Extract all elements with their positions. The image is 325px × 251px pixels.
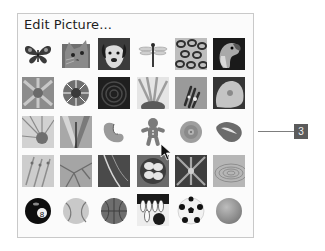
cat-icon bbox=[60, 38, 92, 70]
ripples-icon bbox=[213, 155, 245, 187]
picture-sunflower[interactable] bbox=[137, 77, 169, 109]
flower-petals-icon bbox=[22, 77, 54, 109]
picture-leaf-veins[interactable] bbox=[60, 155, 92, 187]
leaf-veins-icon bbox=[60, 155, 92, 187]
dark-swirl-icon bbox=[98, 77, 130, 109]
butterfly-icon bbox=[22, 38, 54, 70]
picture-bowling[interactable] bbox=[137, 194, 169, 226]
leaves-icon bbox=[60, 116, 92, 148]
panel-title[interactable]: Edit Picture... bbox=[24, 17, 112, 32]
picture-dark-swirl[interactable] bbox=[98, 77, 130, 109]
picture-basketball[interactable] bbox=[98, 194, 130, 226]
picture-ripples[interactable] bbox=[213, 155, 245, 187]
daisy-icon bbox=[60, 77, 92, 109]
lightning-icon bbox=[98, 155, 130, 187]
picture-dog[interactable] bbox=[98, 38, 130, 70]
picture-parrot[interactable] bbox=[213, 38, 245, 70]
svg-text:8: 8 bbox=[40, 210, 45, 219]
billiard-ball-icon: 8 bbox=[22, 194, 54, 226]
picture-leaves[interactable] bbox=[60, 116, 92, 148]
picture-tennis-ball[interactable] bbox=[213, 194, 245, 226]
picture-rose[interactable] bbox=[213, 77, 245, 109]
dog-icon bbox=[98, 38, 130, 70]
callout-line bbox=[258, 131, 294, 132]
snowflake-abstract-icon bbox=[175, 155, 207, 187]
rose-icon bbox=[213, 77, 245, 109]
picture-daisy[interactable] bbox=[60, 77, 92, 109]
picture-lips[interactable] bbox=[213, 116, 245, 148]
callout-badge: 3 bbox=[294, 124, 308, 139]
parrot-icon bbox=[213, 38, 245, 70]
picture-flower-petals[interactable] bbox=[22, 77, 54, 109]
bowling-icon bbox=[137, 194, 169, 226]
picture-hand-flower[interactable] bbox=[175, 77, 207, 109]
picture-target-disc[interactable] bbox=[175, 116, 207, 148]
picture-cat[interactable] bbox=[60, 38, 92, 70]
picture-fortune-cookie[interactable] bbox=[98, 116, 130, 148]
picture-butterfly[interactable] bbox=[22, 38, 54, 70]
sunflower-icon bbox=[137, 77, 169, 109]
basketball-icon bbox=[98, 194, 130, 226]
mouse-cursor-icon bbox=[160, 143, 174, 161]
lips-icon bbox=[213, 116, 245, 148]
feathers-icon bbox=[22, 155, 54, 187]
target-disc-icon bbox=[175, 116, 207, 148]
picture-billiard-ball[interactable]: 8 bbox=[22, 194, 54, 226]
picture-soccer-ball[interactable] bbox=[175, 194, 207, 226]
picture-petal-closeup[interactable] bbox=[22, 116, 54, 148]
hand-flower-icon bbox=[175, 77, 207, 109]
picture-feathers[interactable] bbox=[22, 155, 54, 187]
picture-snowflake-abstract[interactable] bbox=[175, 155, 207, 187]
leopard-fur-icon bbox=[175, 38, 207, 70]
baseball-icon bbox=[60, 194, 92, 226]
petal-closeup-icon bbox=[22, 116, 54, 148]
picture-dragonfly[interactable] bbox=[137, 38, 169, 70]
fortune-cookie-icon bbox=[98, 116, 130, 148]
dragonfly-icon bbox=[137, 38, 169, 70]
picture-leopard-fur[interactable] bbox=[175, 38, 207, 70]
edit-picture-panel: Edit Picture... bbox=[17, 13, 254, 238]
soccer-ball-icon bbox=[175, 194, 207, 226]
picture-baseball[interactable] bbox=[60, 194, 92, 226]
tennis-ball-icon bbox=[213, 194, 245, 226]
picture-lightning[interactable] bbox=[98, 155, 130, 187]
